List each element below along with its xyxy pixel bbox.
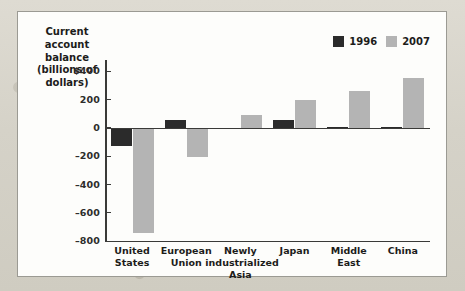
y-tick-label-4: –400 [40, 180, 100, 190]
y-tick-label-6: –800 [40, 236, 100, 246]
x-category-label-5: China [368, 245, 438, 257]
bar-2007-4 [349, 91, 370, 128]
bar-1996-0 [111, 128, 132, 146]
y-tick-label-3: –200 [40, 151, 100, 161]
bar-2007-1 [187, 128, 208, 157]
y-tick-0 [105, 71, 111, 72]
chart-panel: Current account balance (billions of dol… [17, 11, 447, 277]
bar-2007-5 [403, 78, 424, 128]
y-tick-label-2: 0 [40, 123, 100, 133]
zero-baseline [105, 128, 430, 130]
y-tick-4 [105, 184, 111, 185]
bar-2007-3 [295, 100, 316, 128]
y-tick-label-5: –600 [40, 208, 100, 218]
y-axis-line [105, 60, 107, 242]
plot-area: $4002000–200–400–600–800 UnitedStatesEur… [18, 12, 448, 278]
y-tick-6 [105, 241, 111, 242]
y-tick-label-1: 200 [40, 95, 100, 105]
y-tick-label-0: $400 [40, 66, 100, 76]
bar-2007-0 [133, 128, 154, 233]
y-tick-1 [105, 99, 111, 100]
x-axis-line [105, 241, 430, 243]
screenshot-page: Current account balance (billions of dol… [0, 0, 465, 291]
bar-2007-2 [241, 115, 262, 128]
y-tick-3 [105, 156, 111, 157]
y-tick-5 [105, 212, 111, 213]
